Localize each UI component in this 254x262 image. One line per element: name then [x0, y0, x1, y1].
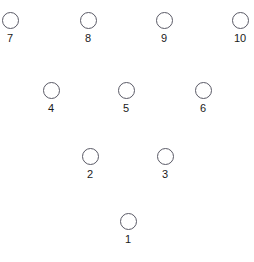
node-label: 2 — [70, 169, 110, 180]
node-label: 7 — [0, 33, 30, 44]
node-circle-icon[interactable] — [157, 148, 174, 165]
node-label: 4 — [31, 103, 71, 114]
diagram-canvas: 12345678910 — [0, 0, 254, 262]
node-circle-icon[interactable] — [118, 82, 135, 99]
node-circle-icon[interactable] — [195, 82, 212, 99]
node-circle-icon[interactable] — [156, 12, 173, 29]
node-label: 10 — [220, 33, 254, 44]
node-label: 3 — [145, 169, 185, 180]
node-label: 6 — [183, 103, 223, 114]
node-circle-icon[interactable] — [80, 12, 97, 29]
node-circle-icon[interactable] — [120, 213, 137, 230]
node-label: 9 — [144, 33, 184, 44]
node-circle-icon[interactable] — [232, 12, 249, 29]
node-circle-icon[interactable] — [43, 82, 60, 99]
node-label: 8 — [68, 33, 108, 44]
node-label: 1 — [108, 234, 148, 245]
node-circle-icon[interactable] — [2, 12, 19, 29]
node-label: 5 — [106, 103, 146, 114]
node-circle-icon[interactable] — [82, 148, 99, 165]
